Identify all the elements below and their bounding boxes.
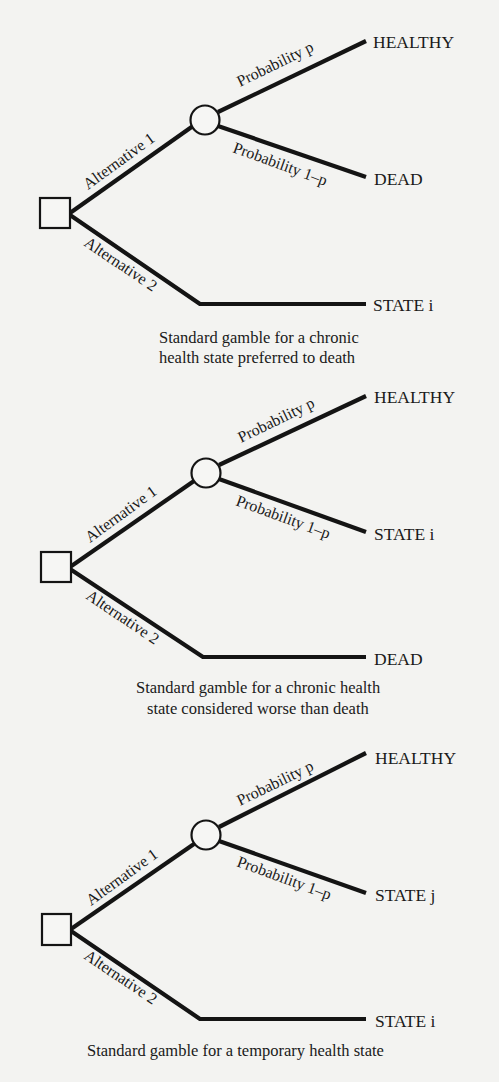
- alt1-branch: [70, 481, 194, 567]
- decision-node-square-icon: [40, 198, 70, 228]
- caption-line-2: health state preferred to death: [159, 348, 356, 367]
- outcome-alt2: STATE i: [375, 1011, 435, 1031]
- caption-line-2: state considered worse than death: [147, 699, 370, 718]
- outcome-1mp: STATE i: [374, 524, 434, 544]
- outcome-alt2: STATE i: [373, 295, 433, 315]
- chance-node-circle-icon: [192, 821, 221, 850]
- decision-tree-3: Alternative 1 Alternative 2 Probability …: [42, 748, 456, 1060]
- caption-line-1: Standard gamble for a chronic health: [136, 678, 381, 697]
- outcome-p: HEALTHY: [373, 32, 454, 52]
- outcome-p: HEALTHY: [375, 748, 456, 768]
- prob-1mp-label: Probability 1–p: [234, 492, 333, 543]
- decision-node-square-icon: [42, 914, 71, 945]
- alt2-label: Alternative 2: [81, 233, 160, 294]
- alt2-label: Alternative 2: [83, 586, 162, 647]
- chance-node-circle-icon: [191, 106, 220, 135]
- standard-gamble-figure: Alternative 1 Alternative 2 Probability …: [0, 0, 499, 1082]
- decision-node-square-icon: [41, 552, 71, 582]
- decision-tree-1: Alternative 1 Alternative 2 Probability …: [40, 32, 454, 367]
- outcome-alt2: DEAD: [374, 649, 423, 669]
- decision-tree-2: Alternative 1 Alternative 2 Probability …: [41, 387, 455, 718]
- outcome-p: HEALTHY: [374, 387, 455, 407]
- alt1-branch: [71, 844, 194, 929]
- caption-line-1: Standard gamble for a temporary health s…: [87, 1041, 384, 1060]
- caption-line-1: Standard gamble for a chronic: [159, 328, 359, 347]
- outcome-1mp: DEAD: [374, 169, 423, 189]
- alt2-label: Alternative 2: [81, 946, 160, 1007]
- chance-node-circle-icon: [192, 459, 221, 488]
- alt1-branch: [70, 126, 193, 213]
- outcome-1mp: STATE j: [375, 885, 435, 905]
